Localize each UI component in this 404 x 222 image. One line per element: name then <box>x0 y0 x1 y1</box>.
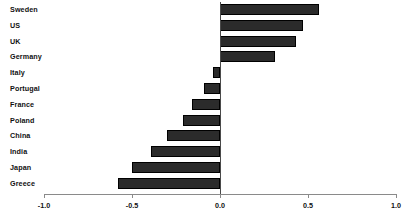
bar-poland <box>183 115 220 126</box>
x-tick-label-1: -0.5 <box>126 201 138 210</box>
bar-italy <box>213 67 220 78</box>
bar-us <box>220 20 303 31</box>
bar-india <box>151 146 220 157</box>
x-tick-label-2: 0.0 <box>215 201 225 210</box>
x-tick-mark-3 <box>308 194 309 198</box>
bar-japan <box>132 162 220 173</box>
bar-germany <box>220 51 275 62</box>
x-tick-mark-0 <box>44 194 45 198</box>
bar-sweden <box>220 4 319 15</box>
x-tick-label-0: -1.0 <box>38 201 50 210</box>
plot-area <box>0 0 404 194</box>
x-tick-label-3: 0.5 <box>303 201 313 210</box>
bar-chart: SwedenUSUKGermanyItalyPortugalFrancePola… <box>0 0 404 222</box>
x-tick-label-4: 1.0 <box>391 201 401 210</box>
bar-france <box>192 99 220 110</box>
zero-reference-line <box>220 2 221 194</box>
bar-greece <box>118 178 220 189</box>
bar-china <box>167 130 220 141</box>
x-tick-mark-2 <box>220 194 221 198</box>
bar-uk <box>220 36 296 47</box>
x-tick-mark-1 <box>132 194 133 198</box>
bar-portugal <box>204 83 220 94</box>
x-tick-mark-4 <box>396 194 397 198</box>
